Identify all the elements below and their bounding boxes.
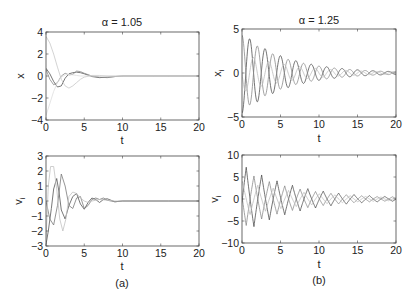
series-line-x3 bbox=[242, 58, 396, 91]
y-tick-label: 4 bbox=[37, 26, 43, 38]
y-tick-label: 0 bbox=[233, 67, 239, 79]
x-axis-label: t bbox=[317, 132, 320, 144]
series-line-x3 bbox=[46, 36, 199, 88]
y-axis-label-sub: i bbox=[214, 195, 223, 197]
series-line-x1 bbox=[242, 39, 396, 114]
figure: α = 1.05 05101520−4−2024 t x α = 1.25 05… bbox=[0, 0, 417, 300]
subfigure-caption: (b) bbox=[312, 274, 325, 286]
y-tick-label: −2 bbox=[31, 225, 43, 237]
panel-a-bottom: 05101520−3−2−10123 t vi (a) bbox=[12, 150, 205, 290]
y-tick-label: 3 bbox=[37, 150, 43, 162]
y-axis-label: x bbox=[14, 73, 26, 79]
panel-title: α = 1.25 bbox=[299, 14, 339, 26]
y-tick-label: 2 bbox=[37, 165, 43, 177]
panel-b-top: α = 1.25 05101520−505 t xi bbox=[211, 14, 402, 144]
y-tick-label: −3 bbox=[31, 240, 43, 252]
series-line-x4 bbox=[46, 74, 199, 115]
x-tick-label: 5 bbox=[278, 244, 284, 256]
subfigure-caption: (a) bbox=[115, 277, 128, 289]
y-axis-label-sub: i bbox=[217, 69, 226, 71]
series-line-x2 bbox=[46, 69, 199, 84]
y-axis-label-sub: i bbox=[18, 197, 27, 199]
series-line-v3 bbox=[46, 167, 199, 241]
x-tick-label: 0 bbox=[239, 118, 245, 130]
x-tick-label: 10 bbox=[117, 247, 129, 259]
series-line-x1 bbox=[46, 68, 199, 87]
x-tick-label: 10 bbox=[117, 121, 129, 133]
x-tick-label: 10 bbox=[313, 118, 325, 130]
x-tick-label: 10 bbox=[313, 244, 325, 256]
y-tick-label: −10 bbox=[221, 237, 239, 249]
x-tick-label: 15 bbox=[155, 121, 167, 133]
y-tick-label: −4 bbox=[31, 114, 43, 126]
x-tick-label: 20 bbox=[193, 121, 205, 133]
y-tick-label: −2 bbox=[31, 92, 43, 104]
y-tick-label: 10 bbox=[227, 149, 239, 161]
y-tick-label: 1 bbox=[37, 180, 43, 192]
panel-b-bottom: 05101520−10−50510 t vi (b) bbox=[208, 149, 402, 287]
series-line-v1 bbox=[242, 167, 396, 226]
y-axis-label: xi bbox=[211, 69, 226, 77]
x-tick-label: 15 bbox=[352, 244, 364, 256]
x-tick-label: 5 bbox=[81, 247, 87, 259]
series-line-v2 bbox=[46, 174, 199, 225]
series-line-v1 bbox=[46, 179, 199, 245]
y-tick-label: 0 bbox=[37, 195, 43, 207]
y-tick-label: 0 bbox=[37, 70, 43, 82]
series-line-x2 bbox=[242, 35, 396, 105]
y-tick-label: −1 bbox=[31, 210, 43, 222]
x-tick-label: 5 bbox=[81, 121, 87, 133]
x-tick-label: 0 bbox=[239, 244, 245, 256]
y-axis-label: vi bbox=[208, 195, 223, 203]
x-tick-label: 0 bbox=[43, 247, 49, 259]
y-tick-label: −5 bbox=[227, 215, 239, 227]
y-axis-label-main: x bbox=[14, 73, 26, 79]
y-tick-label: 5 bbox=[233, 23, 239, 35]
x-tick-label: 20 bbox=[193, 247, 205, 259]
x-axis-label: t bbox=[317, 258, 320, 270]
x-tick-label: 15 bbox=[155, 247, 167, 259]
y-axis-label: vi bbox=[12, 197, 27, 205]
y-tick-label: 0 bbox=[233, 193, 239, 205]
y-tick-label: 5 bbox=[233, 171, 239, 183]
y-tick-label: −5 bbox=[227, 111, 239, 123]
x-tick-label: 20 bbox=[390, 244, 402, 256]
panel-a-top: α = 1.05 05101520−4−2024 t x bbox=[14, 16, 205, 146]
x-tick-label: 0 bbox=[43, 121, 49, 133]
x-tick-label: 15 bbox=[352, 118, 364, 130]
x-axis-label: t bbox=[120, 260, 123, 272]
panel-title: α = 1.05 bbox=[102, 16, 142, 28]
x-tick-label: 20 bbox=[390, 118, 402, 130]
x-tick-label: 5 bbox=[278, 118, 284, 130]
y-tick-label: 2 bbox=[37, 48, 43, 60]
x-axis-label: t bbox=[120, 134, 123, 146]
